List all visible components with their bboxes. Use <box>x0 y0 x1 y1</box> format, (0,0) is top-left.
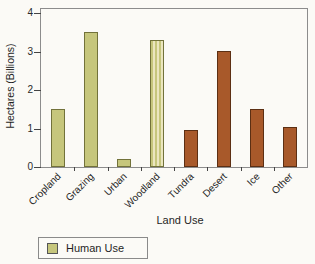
x-axis-tick <box>141 167 142 171</box>
x-axis-tick <box>174 167 175 171</box>
legend-swatch-human-use <box>47 243 58 254</box>
x-axis-tick <box>108 167 109 171</box>
plot-area: 01234 <box>40 8 308 168</box>
y-axis-tick <box>34 167 41 168</box>
x-axis-tick <box>207 167 208 171</box>
bar-woodland <box>150 40 164 167</box>
bar-tundra <box>184 130 198 167</box>
bar-cropland <box>51 109 65 167</box>
bar-other <box>283 127 297 167</box>
bar-grazing <box>84 32 98 167</box>
y-axis-tick <box>34 13 41 14</box>
y-axis-tick-label: 2 <box>15 85 33 95</box>
y-axis-tick-label: 1 <box>15 124 33 134</box>
x-axis-tick <box>241 167 242 171</box>
x-axis-tick <box>74 167 75 171</box>
y-axis-tick <box>34 90 41 91</box>
y-axis-tick <box>34 129 41 130</box>
legend-label-human-use: Human Use <box>66 242 124 254</box>
y-axis-tick <box>34 52 41 53</box>
bar-desert <box>217 51 231 167</box>
y-axis-tick-label: 4 <box>15 8 33 18</box>
y-axis-tick-label: 3 <box>15 47 33 57</box>
y-axis-tick-label: 0 <box>15 162 33 172</box>
land-use-bar-chart: Hectares (Billions) 01234 Land Use Human… <box>0 0 315 264</box>
bar-ice <box>250 109 264 167</box>
x-axis-tick <box>274 167 275 171</box>
x-category-label-other: Other <box>224 171 295 242</box>
bar-urban <box>117 159 131 167</box>
